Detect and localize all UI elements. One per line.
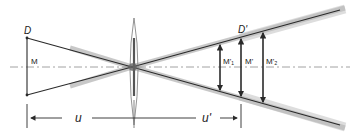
lens (129, 18, 138, 125)
label-object-plane: D (24, 25, 31, 36)
label-object-distance: u (75, 111, 82, 125)
lens-diagram: D M D' M'₁ M' M'₂ u u' (0, 0, 352, 135)
label-image-size-near: M'₁ (223, 57, 234, 66)
label-image-size-far: M'₂ (266, 57, 277, 66)
label-image-plane: D' (238, 24, 248, 35)
label-object-size: M (31, 57, 38, 66)
label-image-size: M' (245, 57, 254, 66)
ray-blur-bands (70, 8, 345, 128)
label-image-distance: u' (202, 111, 212, 125)
